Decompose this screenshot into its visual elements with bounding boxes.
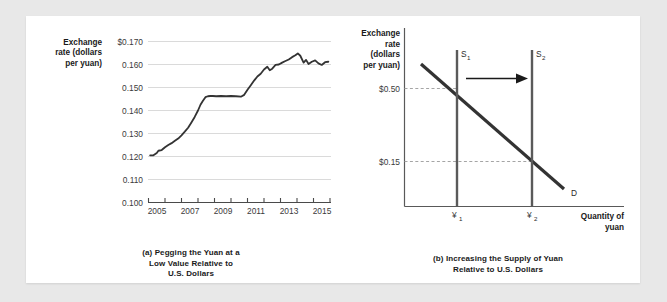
panel-b-supply-demand-diagram: S 1 S 2 D $0.50 $0.15 ¥ 1 ¥ 2 Exchange r… xyxy=(356,16,640,283)
panel-b-caption-line2: Relative to U.S. Dollars xyxy=(356,265,640,276)
x-tick-2015: 2015 xyxy=(313,206,332,216)
panel-b-x-axis-title-line2: yuan xyxy=(605,223,624,232)
rightward-shift-arrow-icon xyxy=(466,74,528,84)
panel-b-y-axis-title-line3: (dollars xyxy=(370,50,400,59)
demand-curve xyxy=(421,64,564,189)
panel-b-x-tick-q2: ¥ xyxy=(526,210,532,220)
x-tick-2007: 2007 xyxy=(181,206,200,216)
y-tick-0150: 0.150 xyxy=(122,83,143,93)
y-tick-0110: 0.110 xyxy=(123,175,144,185)
y-tick-0100: 0.100 xyxy=(122,198,143,208)
panel-b-y-axis-title-line2: rate xyxy=(385,40,400,49)
panel-b-caption-line1: (b) Increasing the Supply of Yuan xyxy=(356,254,640,265)
panel-b-y-axis-title-line4: per yuan) xyxy=(363,61,400,70)
panel-b-y-tick-high: $0.50 xyxy=(379,84,400,94)
panel-a-svg: $0.170 0.160 0.150 0.140 0.130 0.120 0.1… xyxy=(26,16,356,248)
supply-curve-s2-sublabel: 2 xyxy=(542,54,546,61)
supply-curve-s1-sublabel: 1 xyxy=(467,54,471,61)
y-tick-0170: $0.170 xyxy=(117,37,143,47)
panel-a-y-axis-title-line2: rate (dollars xyxy=(55,48,102,57)
panel-a-y-axis-title-line3: per yuan) xyxy=(65,59,102,68)
panel-b-x-tick-q2-sub: 2 xyxy=(534,215,538,222)
panel-b-y-tick-low: $0.15 xyxy=(379,157,400,167)
panel-b-x-tick-q1-sub: 1 xyxy=(459,215,463,222)
x-axis-ticks xyxy=(149,198,331,203)
panel-a-caption-line2: Low Value Relative to xyxy=(26,259,356,270)
x-tick-2009: 2009 xyxy=(214,206,233,216)
panel-a-line-chart: $0.170 0.160 0.150 0.140 0.130 0.120 0.1… xyxy=(26,16,356,283)
figure-card: $0.170 0.160 0.150 0.140 0.130 0.120 0.1… xyxy=(26,16,640,283)
y-tick-0130: 0.130 xyxy=(122,129,143,139)
panel-a-y-axis-title-line1: Exchange xyxy=(63,38,102,47)
exchange-rate-series xyxy=(150,53,328,155)
demand-curve-label: D xyxy=(571,188,577,198)
panel-b-svg: S 1 S 2 D $0.50 $0.15 ¥ 1 ¥ 2 Exchange r… xyxy=(356,16,640,254)
x-tick-2005: 2005 xyxy=(148,206,167,216)
panel-b-y-axis-title-line1: Exchange xyxy=(361,29,400,38)
y-tick-0140: 0.140 xyxy=(122,106,143,116)
panel-b-x-tick-q1: ¥ xyxy=(451,210,457,220)
panel-b-x-axis-title-line1: Quantity of xyxy=(581,212,624,221)
x-tick-2011: 2011 xyxy=(247,206,265,216)
y-tick-0160: 0.160 xyxy=(122,60,143,70)
y-tick-0120: 0.120 xyxy=(122,152,143,162)
panel-a-caption: (a) Pegging the Yuan at a Low Value Rela… xyxy=(26,248,356,280)
panel-b-caption: (b) Increasing the Supply of Yuan Relati… xyxy=(356,254,640,275)
x-tick-2013: 2013 xyxy=(280,206,299,216)
panel-a-caption-line1: (a) Pegging the Yuan at a xyxy=(26,248,356,259)
panel-a-caption-line3: U.S. Dollars xyxy=(26,269,356,280)
